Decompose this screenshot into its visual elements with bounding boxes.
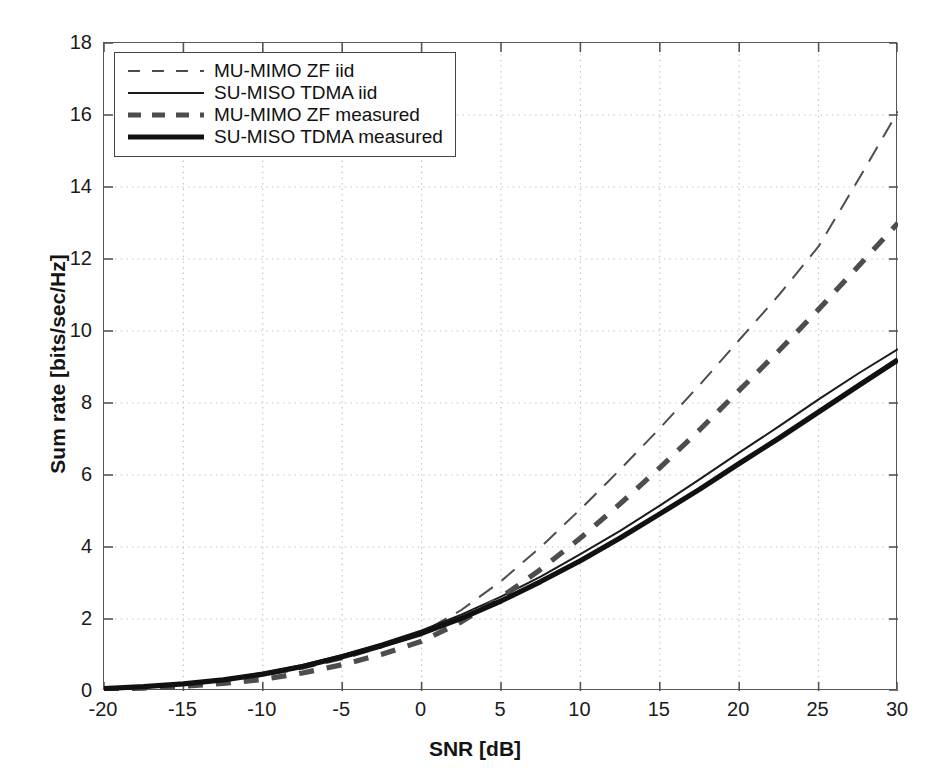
x-tick-label: -15 [168, 698, 197, 721]
legend-item-label: MU-MIMO ZF iid [214, 61, 354, 81]
y-axis-title: Sum rate [bits/sec/Hz] [46, 84, 70, 644]
legend-box: MU-MIMO ZF iidSU-MISO TDMA iidMU-MIMO ZF… [114, 52, 456, 157]
legend-item[interactable]: SU-MISO TDMA iid [127, 82, 443, 104]
legend-item-label: MU-MIMO ZF measured [214, 105, 420, 125]
x-tick-label: 10 [568, 698, 590, 721]
x-tick-label: 20 [727, 698, 749, 721]
x-tick-label: -5 [332, 698, 350, 721]
x-tick-label: 25 [806, 698, 828, 721]
series-line-2 [104, 223, 898, 689]
y-tick-label: 18 [40, 31, 92, 54]
x-tick-label: -20 [89, 698, 118, 721]
x-tick-label: 5 [494, 698, 505, 721]
legend-item-label: SU-MISO TDMA iid [214, 83, 377, 103]
x-tick-label: -10 [247, 698, 276, 721]
x-tick-label: 0 [415, 698, 426, 721]
x-tick-label: 30 [886, 698, 908, 721]
legend-item[interactable]: MU-MIMO ZF iid [127, 60, 443, 82]
legend-item[interactable]: MU-MIMO ZF measured [127, 104, 443, 126]
legend-line-swatch [127, 127, 205, 147]
x-axis-title: SNR [dB] [0, 737, 950, 761]
legend-item-label: SU-MISO TDMA measured [214, 127, 443, 147]
x-tick-label: 15 [648, 698, 670, 721]
legend-line-swatch [127, 105, 205, 125]
y-tick-label: 0 [40, 679, 92, 702]
series-line-3 [104, 360, 898, 689]
legend-line-swatch [127, 61, 205, 81]
figure-container: 024681012141618 -20-15-10-5051015202530 … [0, 0, 950, 782]
legend-line-swatch [127, 83, 205, 103]
data-curves [104, 111, 898, 689]
legend-item[interactable]: SU-MISO TDMA measured [127, 126, 443, 148]
